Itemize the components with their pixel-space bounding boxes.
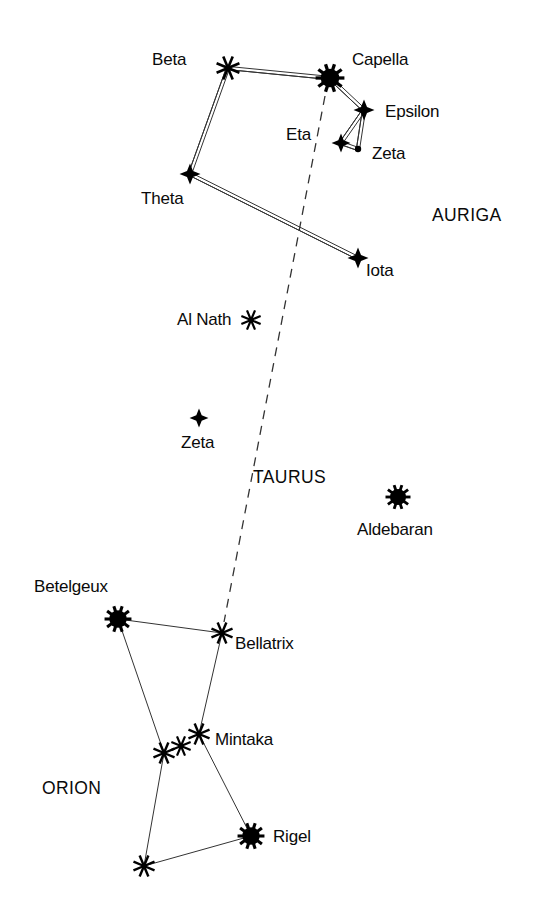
star-core (197, 732, 202, 737)
star-orion-rigel[interactable] (238, 823, 265, 849)
star-taurus-zeta[interactable] (190, 409, 209, 428)
pointer-line-layer (224, 96, 325, 622)
star-core (162, 751, 167, 756)
star-cross-shape (180, 164, 201, 185)
star-orion-saiph[interactable] (133, 855, 154, 876)
star-label-auriga-iota: Iota (366, 262, 394, 279)
star-label-orion-bellatrix: Bellatrix (235, 635, 294, 652)
star-orion-belt-end[interactable] (153, 742, 174, 763)
star-auriga-beta[interactable] (217, 57, 240, 80)
constellation-line-auriga (356, 110, 362, 149)
constellation-line-auriga (189, 175, 357, 259)
star-chart: BetaCapellaEpsilonEtaZetaThetaIotaAURIGA… (0, 0, 547, 919)
constellation-line-orion (118, 619, 164, 753)
constellation-line-orion (199, 734, 251, 836)
star-disc (109, 610, 126, 627)
star-disc (242, 827, 259, 844)
star-core (220, 631, 225, 636)
star-label-orion-mintaka: Mintaka (215, 731, 273, 748)
star-label-taurus-alnath: Al Nath (177, 311, 231, 328)
constellation-line-orion (144, 836, 251, 866)
constellation-label-auriga: AURIGA (432, 207, 502, 225)
constellation-line-auriga (188, 67, 226, 173)
constellation-line-orion (144, 753, 164, 866)
star-disc (321, 69, 340, 88)
constellation-label-taurus: TAURUS (253, 469, 326, 487)
star-orion-betelgeux[interactable] (105, 606, 132, 632)
star-disc (390, 489, 406, 505)
star-label-auriga-epsilon: Epsilon (385, 103, 439, 120)
star-core (249, 318, 253, 322)
star-core (179, 744, 183, 748)
star-label-orion-betelgeux: Betelgeux (34, 578, 108, 595)
star-label-auriga-beta: Beta (152, 51, 186, 68)
star-label-auriga-theta: Theta (141, 190, 183, 207)
star-auriga-zeta[interactable] (355, 146, 361, 152)
constellation-line-auriga (340, 109, 363, 142)
star-core (142, 864, 147, 869)
star-label-orion-rigel: Rigel (273, 828, 311, 845)
star-label-auriga-zeta: Zeta (372, 145, 405, 162)
constellation-label-orion: ORION (42, 780, 101, 798)
star-label-taurus-zeta: Zeta (181, 434, 214, 451)
star-label-auriga-eta: Eta (286, 126, 311, 143)
star-label-taurus-aldebaran: Aldebaran (357, 521, 433, 538)
star-orion-belt-mid[interactable] (171, 736, 190, 755)
star-core (225, 65, 230, 70)
star-label-auriga-capella: Capella (352, 51, 408, 68)
star-orion-mintaka[interactable] (188, 723, 209, 744)
constellation-line-auriga (191, 173, 359, 257)
star-auriga-theta[interactable] (180, 164, 201, 185)
constellation-line-orion (118, 619, 222, 633)
star-taurus-alnath[interactable] (241, 310, 260, 329)
star-auriga-capella[interactable] (316, 64, 345, 91)
star-taurus-aldebaran[interactable] (386, 485, 411, 509)
constellation-line-orion (199, 633, 222, 734)
star-cross-shape (190, 409, 209, 428)
star-orion-bellatrix[interactable] (211, 622, 232, 643)
constellation-line-auriga (192, 69, 230, 175)
pointer-dashed-line (224, 96, 325, 622)
